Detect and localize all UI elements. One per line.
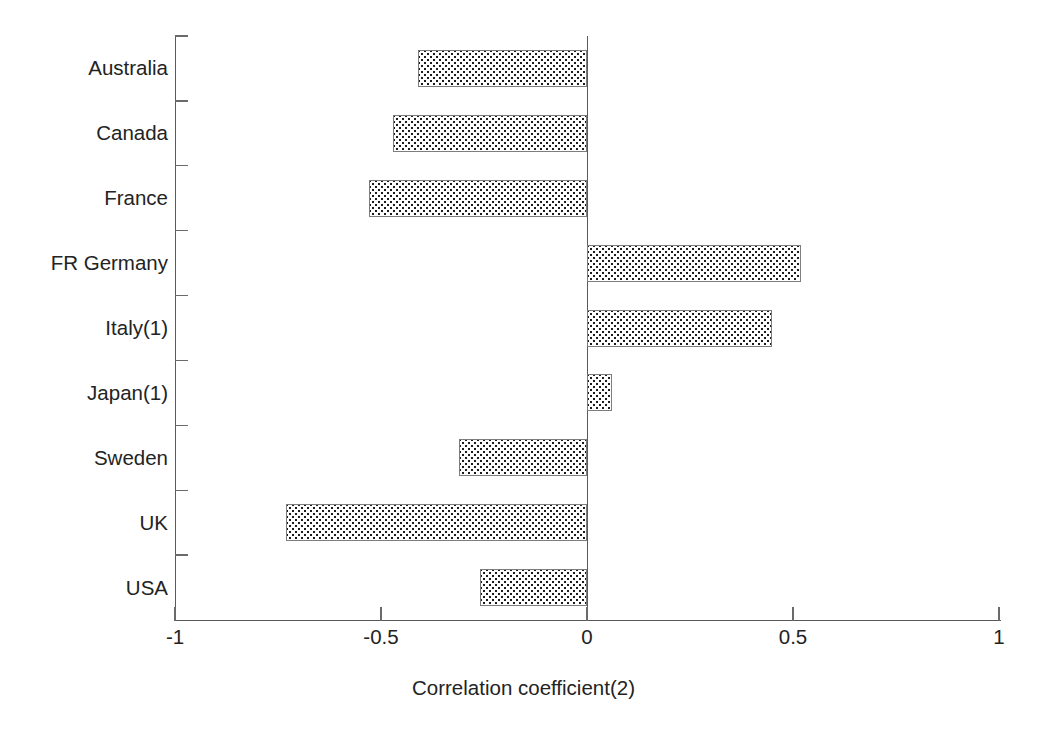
category-label-text: Japan(1)	[87, 381, 168, 405]
bar-italy-1	[587, 310, 772, 347]
category-label-text: Australia	[88, 56, 168, 80]
y-axis-tick	[175, 295, 188, 296]
x-axis-tick	[174, 607, 175, 621]
category-label-text: Sweden	[94, 446, 168, 470]
bar-sweden	[459, 439, 587, 476]
y-axis-tick	[175, 425, 188, 426]
bar-australia	[418, 50, 587, 87]
category-label-text: UK	[140, 511, 168, 535]
y-axis-line	[175, 36, 176, 620]
x-tick-label-0: 0	[581, 627, 592, 648]
y-axis-tick	[175, 230, 188, 231]
x-axis-tick	[792, 607, 793, 621]
y-axis-tick	[175, 165, 188, 166]
x-tick-label-neg0p5: -0.5	[363, 627, 398, 648]
category-label-text: France	[104, 186, 168, 210]
category-label-text: Italy(1)	[105, 316, 168, 340]
x-axis-title: Correlation coefficient(2)	[0, 678, 1047, 699]
y-axis-tick	[175, 360, 188, 361]
bar-uk	[286, 504, 587, 541]
y-axis-tick	[175, 490, 188, 491]
bar-france	[369, 180, 587, 217]
bar-japan-1	[587, 374, 612, 411]
horizontal-bar-chart: AustraliaCanadaFranceFR GermanyItaly(1)J…	[0, 0, 1047, 751]
bar-canada	[393, 115, 587, 152]
y-axis-tick	[175, 554, 188, 555]
category-label-text: USA	[126, 576, 168, 600]
bar-usa	[480, 569, 587, 606]
y-axis-tick	[175, 35, 188, 36]
x-tick-label-0p5: 0.5	[779, 627, 808, 648]
y-axis-tick	[175, 100, 188, 101]
category-label-text: FR Germany	[51, 251, 168, 275]
x-axis-tick	[380, 607, 381, 621]
x-tick-label-1: 1	[993, 627, 1004, 648]
x-axis-tick	[586, 607, 587, 621]
x-axis-tick	[998, 607, 999, 621]
x-tick-label-neg1: -1	[166, 627, 184, 648]
bar-fr-germany	[587, 245, 801, 282]
category-label-text: Canada	[96, 121, 168, 145]
